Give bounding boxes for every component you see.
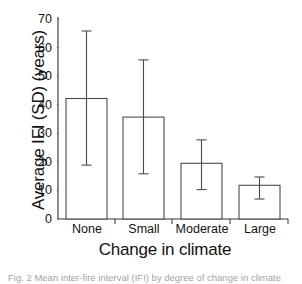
bar-group-large[interactable]	[239, 177, 280, 219]
y-tick-label: 70	[26, 13, 52, 26]
bar-group-small[interactable]	[123, 60, 164, 219]
figure-caption: Fig. 2 Mean inter-fire interval (IFI) by…	[8, 272, 298, 284]
chart-canvas	[57, 14, 289, 226]
x-tick-label-small: Small	[128, 223, 159, 236]
x-axis-title: Change in climate	[40, 240, 290, 260]
figure-bar-chart: Average IFI (SD) (years) 70 60 50 40 30 …	[0, 0, 302, 284]
y-tick-label: 40	[26, 98, 52, 111]
x-tick-label-large: Large	[244, 223, 276, 236]
y-tick-label: 20	[26, 156, 52, 169]
x-tick-label-moderate: Moderate	[176, 223, 229, 236]
y-tick-label: 30	[26, 127, 52, 140]
x-tick-label-none: None	[72, 223, 102, 236]
bar-group-none[interactable]	[66, 31, 107, 219]
y-tick-label: 60	[26, 41, 52, 54]
y-tick-label: 0	[26, 213, 52, 226]
bar-group-moderate[interactable]	[181, 140, 222, 219]
y-tick-label: 10	[26, 184, 52, 197]
plot-area	[57, 14, 289, 226]
x-axis-tick-labels: None Small Moderate Large	[57, 223, 289, 239]
y-tick-label: 50	[26, 70, 52, 83]
